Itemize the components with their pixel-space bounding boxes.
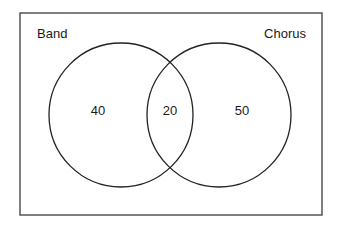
band-label: Band xyxy=(37,26,67,41)
intersection-count: 20 xyxy=(163,103,177,118)
chorus-only-count: 50 xyxy=(235,103,249,118)
band-only-count: 40 xyxy=(91,103,105,118)
chorus-label: Chorus xyxy=(264,26,306,41)
venn-diagram: Band Chorus 40 20 50 xyxy=(0,0,340,227)
